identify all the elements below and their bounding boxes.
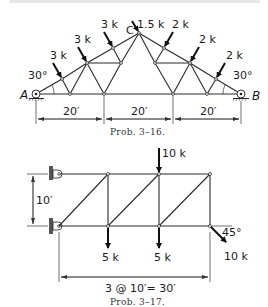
load-label: 1.5 k	[137, 18, 165, 31]
load-arrow-icon	[165, 32, 173, 46]
load-arrow-icon	[53, 63, 61, 77]
load-label: 10 k	[162, 147, 186, 160]
load-arrow-icon	[78, 47, 86, 61]
figure-canvas: A B C 30° 30° 3 k 3 k 3 k	[0, 0, 268, 307]
support-b-icon	[233, 90, 249, 101]
label-c: C	[126, 24, 134, 37]
span-dimensions: 20′ 20′ 20′	[36, 96, 241, 124]
label-a: A	[19, 88, 28, 102]
load-label: 5 k	[102, 251, 119, 264]
caption-3-16: Prob. 3–16.	[110, 127, 165, 137]
load-label: 2 k	[226, 49, 243, 62]
load-label: 3 k	[101, 18, 118, 31]
support-a-icon	[29, 90, 44, 101]
angle-label: 45°	[222, 226, 242, 239]
diagonal-2	[108, 174, 159, 226]
diagonal-3	[159, 174, 210, 226]
load-label: 2 k	[199, 33, 216, 46]
angle-arc-right	[223, 85, 225, 94]
load-label: 3 k	[74, 33, 91, 46]
load-label: 2 k	[172, 18, 189, 31]
span-label-1: 20′	[63, 105, 80, 118]
height-label: 10′	[36, 194, 53, 207]
span-label-2: 20′	[131, 105, 148, 118]
angle-label-left: 30°	[28, 69, 48, 82]
load-label: 3 k	[50, 49, 67, 62]
load-arrow-icon	[217, 63, 225, 77]
label-b: B	[252, 89, 260, 103]
span-label: 3 @ 10′= 30′	[105, 282, 176, 295]
load-arrow-icon	[104, 32, 112, 46]
header-fragment	[10, 0, 260, 3]
load-label: 5 k	[154, 251, 171, 264]
loads-3-17: 10 k 5 k 5 k 10 k 45°	[102, 147, 248, 264]
truss-3-16: A B C 30° 30° 3 k 3 k 3 k	[19, 18, 260, 137]
diagonal-1	[59, 174, 108, 226]
angle-label-right: 30°	[233, 69, 253, 82]
truss-3-17: 10′ 10 k 5 k 5 k 10 k 45° 3 @ 10′= 30′ P…	[27, 147, 248, 307]
caption-3-17: Prob. 3–17.	[110, 297, 165, 307]
span-label-3: 20′	[200, 105, 217, 118]
span-dimension: 3 @ 10′= 30′	[59, 232, 210, 295]
load-arrow-icon	[191, 47, 199, 61]
wall-support-top-icon	[49, 166, 62, 180]
load-label: 10 k	[224, 250, 248, 263]
angle-arc-left	[52, 85, 54, 94]
